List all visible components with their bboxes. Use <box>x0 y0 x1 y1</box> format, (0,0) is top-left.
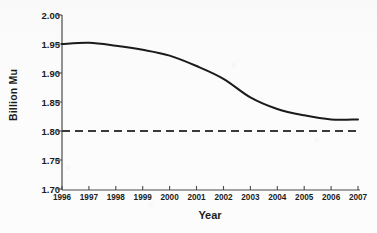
y-tick-marks <box>57 15 62 189</box>
data-series-line <box>62 43 358 120</box>
plot-area <box>0 0 377 233</box>
chart-figure: Billion Mu 2.00 1.95 1.90 1.85 1.80 1.75… <box>0 0 377 233</box>
